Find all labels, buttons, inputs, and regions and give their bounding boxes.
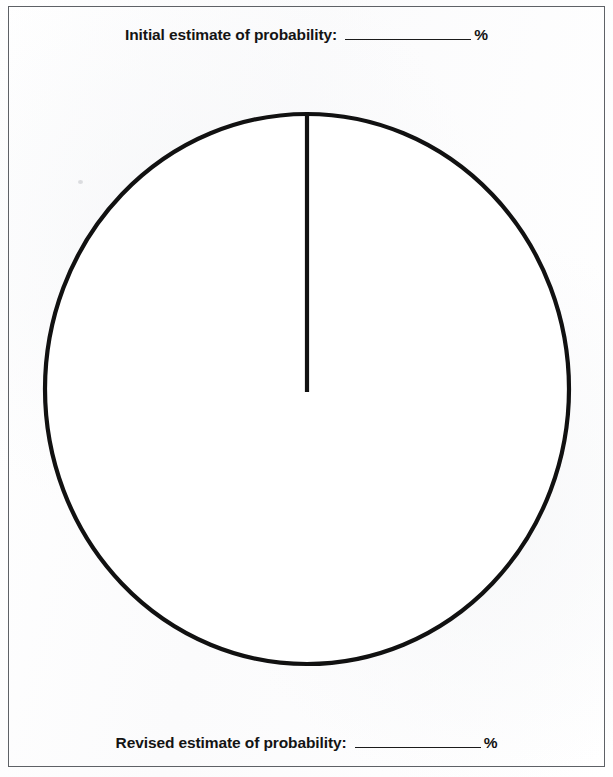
- revised-estimate-input[interactable]: [355, 733, 481, 748]
- worksheet-page: Initial estimate of probability: % Revis…: [0, 0, 613, 777]
- initial-estimate-row: Initial estimate of probability: %: [0, 25, 613, 44]
- revised-estimate-row: Revised estimate of probability: %: [0, 733, 613, 752]
- initial-estimate-label: Initial estimate of probability:: [125, 26, 337, 44]
- revised-estimate-label: Revised estimate of probability:: [116, 734, 347, 752]
- revised-estimate-percent-symbol: %: [484, 734, 498, 752]
- probability-wheel-svg[interactable]: [40, 108, 574, 670]
- initial-estimate-percent-symbol: %: [474, 26, 488, 44]
- probability-wheel[interactable]: [40, 108, 574, 670]
- initial-estimate-input[interactable]: [345, 25, 471, 40]
